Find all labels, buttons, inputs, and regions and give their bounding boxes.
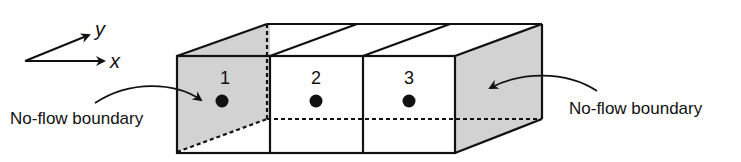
cell-3: 3 xyxy=(403,68,416,108)
left-boundary-label: No-flow boundary xyxy=(10,109,144,128)
right-boundary-face xyxy=(455,24,542,153)
cell-3-label: 3 xyxy=(404,68,414,88)
left-boundary-face xyxy=(177,24,270,152)
right-boundary-label: No-flow boundary xyxy=(569,99,703,118)
cell-2-node-icon xyxy=(310,95,323,108)
y-axis-label: y xyxy=(93,18,106,40)
y-axis-arrow-icon xyxy=(25,35,89,61)
cell-2: 2 xyxy=(310,68,323,108)
x-axis-label: x xyxy=(109,50,121,72)
cell-1-label: 1 xyxy=(220,68,230,88)
axis-indicator: x y xyxy=(25,18,121,72)
cell-3-node-icon xyxy=(403,95,416,108)
diagram-canvas: x y 1 xyxy=(0,0,741,162)
left-boundary-annotation: No-flow boundary xyxy=(10,86,201,128)
cell-2-label: 2 xyxy=(311,68,321,88)
cell-1-node-icon xyxy=(216,95,229,108)
